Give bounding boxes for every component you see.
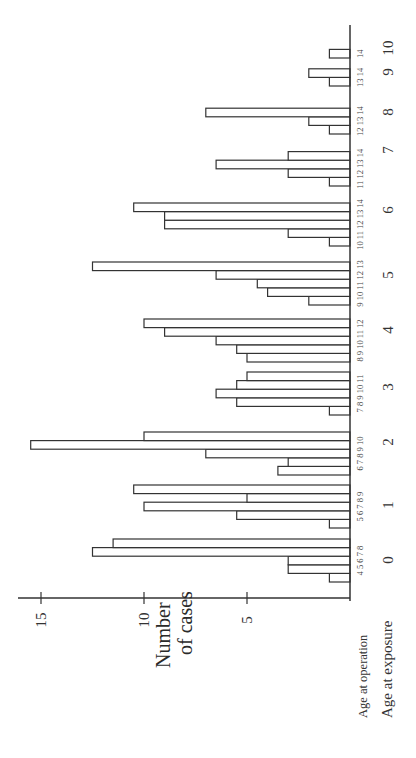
bar-exposure-0-operation-5	[288, 565, 350, 574]
bar-exposure-8-operation-12	[329, 125, 350, 134]
operation-age-labels-group-7: 11 12 13 14	[355, 148, 365, 189]
bar-exposure-9-operation-14	[309, 69, 350, 78]
exposure-age-label-6: 6	[380, 206, 396, 214]
bar-exposure-1-operation-9	[134, 485, 350, 494]
y-axis-title-line2: of cases	[174, 591, 196, 655]
bar-exposure-4-operation-10	[216, 336, 350, 345]
bar-exposure-1-operation-5	[329, 519, 350, 528]
bar-exposure-5-operation-10	[268, 288, 350, 297]
bar-exposure-4-operation-11	[165, 328, 350, 337]
bar-exposure-3-operation-9	[216, 389, 350, 398]
value-tick-label-10: 10	[136, 613, 152, 628]
bar-exposure-7-operation-11	[329, 177, 350, 186]
bar-exposure-9-operation-13	[329, 77, 350, 86]
bar-exposure-5-operation-11	[257, 279, 350, 288]
operation-age-labels-group-9: 13 14	[355, 67, 365, 87]
bar-exposure-3-operation-7	[329, 406, 350, 415]
operation-age-labels-group-8: 12 13 14	[355, 105, 365, 136]
age-at-operation-label: Age at operation	[356, 634, 370, 718]
bar-exposure-6-operation-12	[165, 220, 350, 229]
bars	[31, 49, 350, 582]
bar-exposure-3-operation-11	[247, 372, 350, 381]
operation-age-labels-group-1: 5 6 7 8 9	[355, 492, 365, 522]
exposure-age-label-4: 4	[380, 326, 396, 334]
bar-exposure-2-operation-6	[278, 466, 350, 475]
bar-exposure-2-operation-8	[206, 449, 350, 458]
exposure-age-label-8: 8	[380, 108, 396, 116]
bar-exposure-8-operation-13	[309, 117, 350, 126]
exposure-age-label-0: 0	[380, 556, 396, 564]
bar-exposure-3-operation-10	[237, 381, 350, 390]
bar-exposure-10-operation-14	[329, 49, 350, 58]
bar-exposure-0-operation-7	[93, 548, 351, 557]
exposure-age-label-9: 9	[380, 68, 396, 76]
bar-exposure-8-operation-14	[206, 108, 350, 117]
bar-exposure-3-operation-8	[237, 398, 350, 407]
exposure-age-label-10: 10	[380, 41, 396, 56]
bar-exposure-2-operation-10	[144, 432, 350, 441]
exposure-age-label-7: 7	[380, 146, 396, 154]
y-axis-title-line1: Number	[152, 602, 174, 668]
age-at-exposure-label: Age at exposure	[379, 620, 395, 718]
bar-exposure-6-operation-13	[165, 212, 350, 221]
bar-exposure-0-operation-4	[329, 573, 350, 582]
exposure-age-label-5: 5	[380, 271, 396, 279]
bar-exposure-5-operation-9	[309, 296, 350, 305]
operation-age-labels-group-0: 4 5 6 7 8	[355, 546, 365, 576]
bar-exposure-6-operation-11	[288, 229, 350, 238]
bar-exposure-1-operation-7	[144, 502, 350, 511]
bar-exposure-0-operation-6	[288, 556, 350, 565]
bar-exposure-7-operation-12	[288, 169, 350, 178]
bar-exposure-7-operation-13	[216, 160, 350, 169]
bar-exposure-4-operation-12	[144, 319, 350, 328]
operation-age-labels-group-4: 8 9 10 11 12	[355, 319, 365, 361]
bar-exposure-6-operation-14	[134, 203, 350, 212]
bar-exposure-2-operation-7	[288, 458, 350, 467]
bar-exposure-2-operation-9	[31, 441, 350, 450]
bar-exposure-0-operation-8	[113, 539, 350, 548]
exposure-age-label-2: 2	[380, 438, 396, 446]
value-tick-label-15: 15	[33, 613, 49, 628]
operation-age-labels-group-5: 9 10 11 12 13	[355, 260, 365, 306]
bar-exposure-4-operation-9	[237, 345, 350, 354]
bar-exposure-7-operation-14	[288, 152, 350, 161]
bar-chart: 51015 Number of cases Age at operation A…	[0, 0, 416, 758]
value-tick-label-5: 5	[239, 616, 255, 624]
bar-exposure-5-operation-12	[216, 271, 350, 280]
exposure-age-label-1: 1	[380, 501, 396, 509]
bar-exposure-1-operation-6	[237, 511, 350, 520]
operation-age-labels-group-6: 10 11 12 13 14	[355, 198, 365, 249]
operation-age-labels-group-10: 14	[355, 49, 365, 58]
operation-age-labels-group-3: 7 8 9 10 11	[355, 375, 365, 413]
bar-exposure-1-operation-8	[247, 494, 350, 503]
bar-exposure-6-operation-10	[329, 237, 350, 246]
bar-exposure-4-operation-8	[247, 353, 350, 362]
bar-exposure-5-operation-13	[93, 262, 351, 271]
exposure-age-label-3: 3	[380, 383, 396, 391]
operation-age-labels-group-2: 6 7 8 9 10	[355, 437, 365, 471]
